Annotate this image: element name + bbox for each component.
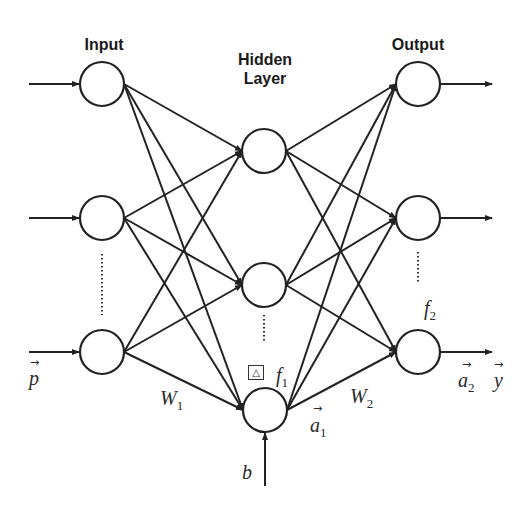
output-activation-label: a2 — [458, 370, 475, 398]
input-layer-title: Input — [76, 35, 132, 54]
weights-2-connections — [286, 84, 396, 410]
hidden-activation-arrow: → — [313, 404, 322, 414]
output-node-1 — [396, 62, 440, 106]
weights-1-label: W1 — [160, 388, 183, 416]
output-arrows — [441, 84, 492, 352]
input-node-1 — [80, 62, 124, 106]
hidden-node-3 — [243, 388, 287, 432]
output-vector-label: y — [494, 370, 503, 390]
transfer-function-icon: △ — [248, 365, 264, 380]
weights-2-label: W2 — [350, 386, 373, 414]
bias-label: b — [242, 462, 252, 482]
weights-1-connections — [124, 84, 243, 410]
hidden-activation-label: a1 — [310, 415, 327, 443]
hidden-transfer-fn-label: f1 — [276, 365, 288, 393]
hidden-node-2 — [242, 263, 286, 307]
neural-network-diagram: Input Hidden Layer Output → p W1 △ f1 → … — [0, 0, 527, 510]
output-transfer-fn-label: f2 — [424, 298, 436, 326]
output-layer-nodes — [396, 62, 440, 374]
output-layer-title: Output — [385, 35, 451, 54]
hidden-layer-title: Hidden Layer — [228, 50, 302, 88]
input-node-2 — [80, 196, 124, 240]
input-vector-label: p — [29, 368, 39, 388]
output-node-2 — [396, 196, 440, 240]
hidden-node-1 — [242, 129, 286, 173]
input-node-3 — [80, 330, 124, 374]
input-layer-nodes — [80, 62, 124, 374]
hidden-title-line2: Layer — [228, 69, 302, 88]
output-node-3 — [396, 330, 440, 374]
input-arrows — [29, 84, 79, 352]
hidden-title-line1: Hidden — [228, 50, 302, 69]
